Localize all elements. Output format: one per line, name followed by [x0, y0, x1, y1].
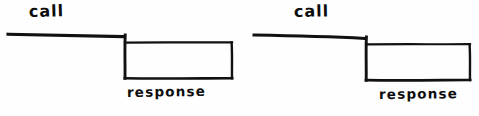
call-response-figure: call response call response: [0, 0, 479, 116]
call-line-right: [254, 35, 365, 38]
call-label-right: call: [294, 3, 330, 20]
call-line-left: [8, 34, 124, 36]
diagram-left: [8, 34, 232, 78]
response-label-right: response: [379, 87, 458, 101]
response-label-left: response: [127, 85, 206, 100]
diagram-right: [254, 35, 470, 80]
call-label-left: call: [29, 3, 65, 20]
